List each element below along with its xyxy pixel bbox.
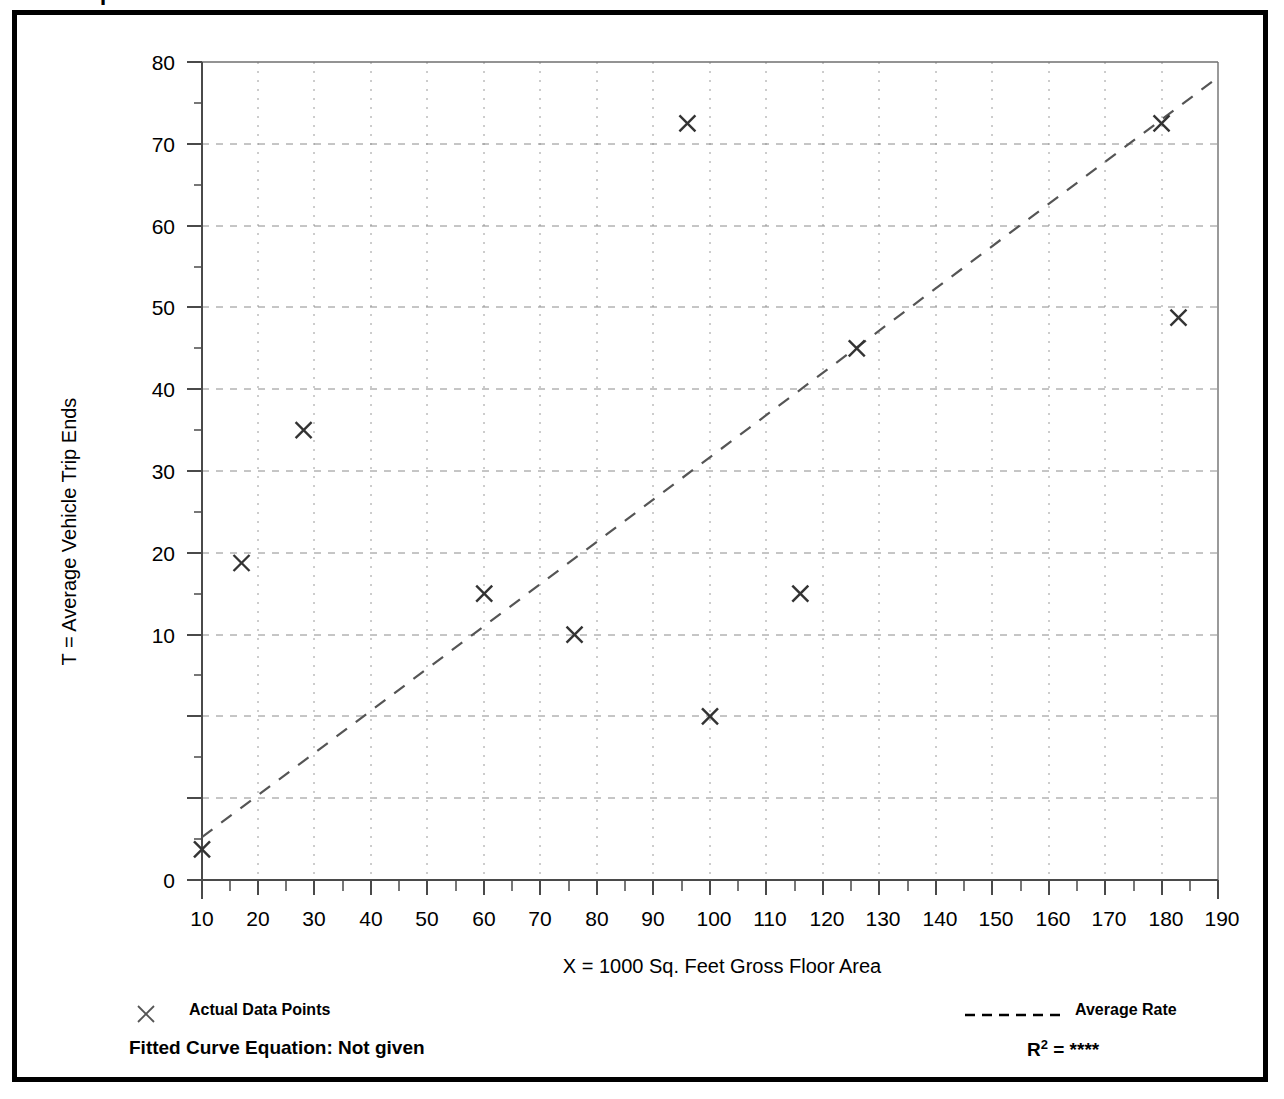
x-axis-title: X = 1000 Sq. Feet Gross Floor Area [214, 955, 1230, 978]
x-tick-labels: 10 20 30 40 50 60 70 80 90 100 110 120 1… [190, 907, 1239, 930]
x-tick-label: 110 [753, 907, 786, 930]
x-tick-label: 150 [978, 907, 1013, 930]
data-point [476, 586, 492, 602]
x-axis-major-ticks [202, 880, 1218, 899]
x-tick-label: 180 [1148, 907, 1183, 930]
data-point-markers [194, 115, 1186, 857]
y-tick-label: 50 [152, 296, 175, 319]
x-tick-label: 80 [585, 907, 608, 930]
y-tick-label: 60 [152, 215, 175, 238]
fitted-curve-equation-label: Fitted Curve Equation: Not given [129, 1037, 425, 1059]
x-tick-label: 20 [246, 907, 269, 930]
y-tick-label: 10 [152, 624, 175, 647]
x-marker-icon [135, 1003, 157, 1025]
y-tick-label: 30 [152, 460, 175, 483]
scatter-chart: 80 70 60 50 40 30 20 10 0 10 20 30 40 50… [17, 15, 1263, 1077]
r-squared-prefix: R [1027, 1039, 1041, 1060]
clipped-top-text: I [100, 0, 130, 5]
y-tick-label: 70 [152, 133, 175, 156]
x-tick-label: 170 [1091, 907, 1126, 930]
x-tick-label: 160 [1035, 907, 1070, 930]
x-tick-label: 190 [1204, 907, 1239, 930]
r-squared-exponent: 2 [1041, 1037, 1048, 1052]
r-squared-value: = **** [1048, 1039, 1099, 1060]
x-tick-label: 30 [302, 907, 325, 930]
y-tick-label: 0 [163, 869, 175, 892]
data-point [792, 586, 808, 602]
data-point [849, 340, 865, 356]
x-tick-label: 10 [190, 907, 213, 930]
x-tick-label: 120 [809, 907, 844, 930]
x-tick-label: 40 [359, 907, 382, 930]
x-tick-label: 100 [696, 907, 731, 930]
y-tick-labels: 80 70 60 50 40 30 20 10 0 [152, 51, 175, 892]
legend-average-rate-label: Average Rate [1075, 1001, 1177, 1019]
axis-lines [200, 62, 1218, 883]
legend-actual-data-points-label: Actual Data Points [189, 1001, 330, 1019]
data-point [296, 422, 312, 438]
x-tick-label: 140 [922, 907, 957, 930]
y-axis-title: T = Average Vehicle Trip Ends [58, 332, 81, 732]
x-tick-label: 50 [415, 907, 438, 930]
x-tick-label: 60 [472, 907, 495, 930]
data-point [1170, 310, 1186, 326]
r-squared-label: R2 = **** [1027, 1037, 1099, 1061]
figure-root: I [0, 0, 1284, 1099]
y-tick-label: 80 [152, 51, 175, 74]
x-tick-label: 130 [865, 907, 900, 930]
dashed-line-icon [965, 1011, 1060, 1019]
data-point [679, 115, 695, 131]
average-rate-trendline [202, 77, 1218, 837]
x-tick-label: 90 [641, 907, 664, 930]
y-tick-label: 40 [152, 378, 175, 401]
figure-frame: 80 70 60 50 40 30 20 10 0 10 20 30 40 50… [12, 10, 1268, 1082]
data-point [234, 555, 250, 571]
y-tick-label: 20 [152, 542, 175, 565]
x-tick-label: 70 [528, 907, 551, 930]
